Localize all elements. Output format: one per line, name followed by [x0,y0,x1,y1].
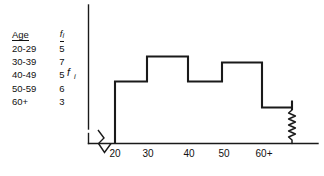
x-tick-label-40: 40 [183,148,195,159]
histogram-step-outline [115,57,292,144]
figure-root: Age fi 20-29 5 30-39 7 40-49 [0,0,324,176]
open-class-squiggle-edge [289,110,296,144]
x-tick-label-50: 50 [218,148,230,159]
histogram-chart: f i 20 30 40 50 60+ [0,0,324,176]
y-axis-title-subscript: i [74,72,76,81]
x-tick-label-60plus: 60+ [256,148,273,159]
histogram-svg: f i 20 30 40 50 60+ [0,0,324,176]
x-tick-label-30: 30 [142,148,154,159]
y-axis-title: f [67,66,71,78]
x-tick-label-20: 20 [109,148,121,159]
